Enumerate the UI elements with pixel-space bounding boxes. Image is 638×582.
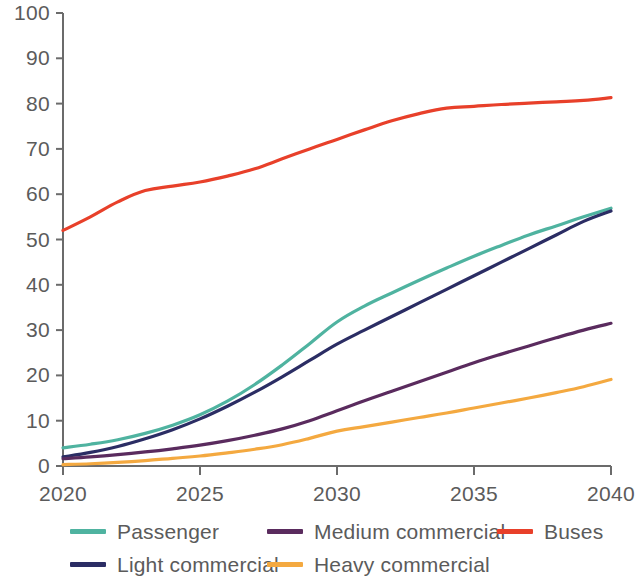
x-axis-tick-labels: 20202025203020352040 bbox=[0, 0, 638, 500]
x-axis-tick-label: 2030 bbox=[313, 483, 361, 504]
legend-swatch-icon bbox=[267, 562, 303, 567]
x-axis-tick-label: 2020 bbox=[39, 483, 87, 504]
line-chart: 0102030405060708090100 20202025203020352… bbox=[0, 0, 638, 582]
legend-swatch-icon bbox=[497, 529, 533, 534]
legend-item-heavy-commercial[interactable]: Heavy commercial bbox=[267, 553, 490, 576]
chart-legend: PassengerMedium commercialBusesLight com… bbox=[0, 505, 638, 582]
legend-swatch-icon bbox=[267, 529, 303, 534]
legend-item-label: Passenger bbox=[117, 520, 219, 543]
legend-item-light-commercial[interactable]: Light commercial bbox=[70, 553, 279, 576]
legend-swatch-icon bbox=[70, 529, 106, 534]
legend-item-label: Heavy commercial bbox=[314, 553, 490, 576]
x-axis-tick-label: 2040 bbox=[587, 483, 635, 504]
x-axis-tick-label: 2025 bbox=[176, 483, 224, 504]
legend-item-label: Light commercial bbox=[117, 553, 279, 576]
legend-item-buses[interactable]: Buses bbox=[497, 520, 603, 543]
legend-item-label: Medium commercial bbox=[314, 520, 505, 543]
legend-item-medium-commercial[interactable]: Medium commercial bbox=[267, 520, 505, 543]
legend-item-passenger[interactable]: Passenger bbox=[70, 520, 219, 543]
legend-swatch-icon bbox=[70, 562, 106, 567]
x-axis-tick-label: 2035 bbox=[450, 483, 498, 504]
legend-item-label: Buses bbox=[544, 520, 603, 543]
